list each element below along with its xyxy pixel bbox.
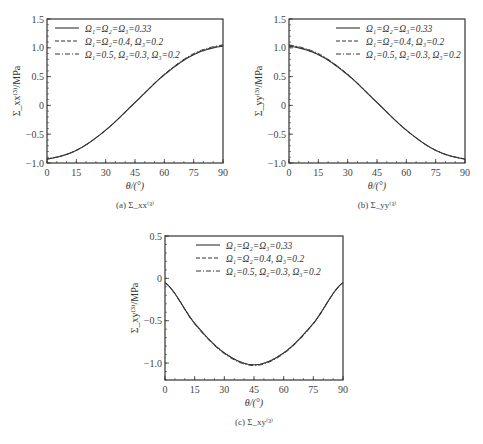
legend-label: Ω₁=Ω₂=0.4, Ω₃=0.2 — [226, 254, 304, 264]
series-line — [165, 283, 343, 366]
x-tick-label: 60 — [159, 167, 169, 178]
legend-label: Ω₁=Ω₂=Ω₃=0.33 — [85, 24, 152, 34]
y-tick-label: −0.5 — [26, 129, 44, 140]
x-tick-label: 90 — [460, 167, 470, 178]
x-axis-label: θ/(°) — [368, 180, 387, 192]
series-line — [47, 46, 223, 159]
x-tick-label: 90 — [338, 384, 348, 395]
subfigure-caption: (c) Σ_xy⁽³⁾ — [235, 417, 273, 427]
x-tick-label: 60 — [279, 384, 289, 395]
chart-b: 0153045607590−1.0−0.500.51.01.5θ/(°)Σ_yy… — [253, 14, 470, 211]
x-tick-label: 45 — [249, 384, 259, 395]
y-tick-label: 1.0 — [32, 42, 45, 53]
legend-label: Ω₁=0.5, Ω₂=0.3, Ω₃=0.2 — [85, 50, 180, 60]
x-tick-label: 45 — [130, 167, 140, 178]
x-tick-label: 0 — [163, 384, 168, 395]
y-tick-label: 0 — [157, 273, 162, 284]
y-tick-label: −1.0 — [268, 158, 286, 169]
x-tick-label: 90 — [218, 167, 228, 178]
y-tick-label: 0.5 — [150, 231, 163, 242]
x-tick-label: 0 — [287, 167, 292, 178]
y-tick-label: 0 — [281, 100, 286, 111]
y-tick-label: 1.5 — [274, 14, 287, 25]
subfigure-caption: (b) Σ_yy⁽³⁾ — [358, 200, 397, 210]
y-axis-label: Σ_xy⁽³⁾/MPa — [129, 282, 140, 333]
y-tick-label: 0.5 — [32, 71, 45, 82]
series-line — [47, 45, 223, 159]
x-tick-label: 30 — [219, 384, 229, 395]
x-tick-label: 15 — [190, 384, 200, 395]
chart-a: 0153045607590−1.0−0.500.51.01.5θ/(°)Σ_xx… — [11, 14, 228, 211]
x-tick-label: 45 — [372, 167, 382, 178]
x-tick-label: 15 — [71, 167, 81, 178]
series-line — [165, 283, 343, 365]
x-tick-label: 60 — [401, 167, 411, 178]
y-tick-label: −1.0 — [26, 158, 44, 169]
series-line — [165, 283, 343, 365]
legend-label: Ω₁=Ω₂=Ω₃=0.33 — [226, 241, 293, 251]
y-tick-label: −0.5 — [268, 129, 286, 140]
subfigure-caption: (a) Σ_xx⁽³⁾ — [116, 200, 154, 210]
x-axis-label: θ/(°) — [126, 180, 145, 192]
y-tick-label: 1.5 — [32, 14, 45, 25]
legend-label: Ω₁=Ω₂=0.4, Ω₃=0.2 — [85, 37, 163, 47]
figure: 0153045607590−1.0−0.500.51.01.5θ/(°)Σ_xx… — [0, 0, 483, 444]
legend-label: Ω₁=Ω₂=0.4, Ω₃=0.2 — [366, 37, 444, 47]
x-tick-label: 30 — [101, 167, 111, 178]
x-tick-label: 15 — [313, 167, 323, 178]
y-axis-label: Σ_xx⁽³⁾/MPa — [11, 65, 22, 116]
y-tick-label: 0.5 — [274, 71, 287, 82]
y-axis-label: Σ_yy⁽³⁾/MPa — [253, 65, 264, 116]
legend-label: Ω₁=0.5, Ω₂=0.3, Ω₃=0.2 — [226, 267, 321, 277]
chart-c: 0153045607590−1.0−0.500.5θ/(°)Σ_xy⁽³⁾/MP… — [129, 231, 348, 428]
x-tick-label: 75 — [431, 167, 441, 178]
y-tick-label: −0.5 — [144, 315, 162, 326]
series-line — [289, 45, 465, 159]
x-tick-label: 75 — [189, 167, 199, 178]
y-tick-label: 0 — [39, 100, 44, 111]
legend-label: Ω₁=0.5, Ω₂=0.3, Ω₃=0.2 — [366, 50, 461, 60]
y-tick-label: −1.0 — [144, 358, 162, 369]
x-tick-label: 30 — [343, 167, 353, 178]
x-axis-label: θ/(°) — [245, 397, 264, 409]
y-tick-label: 1.0 — [274, 42, 287, 53]
legend-label: Ω₁=Ω₂=Ω₃=0.33 — [366, 24, 433, 34]
x-tick-label: 0 — [45, 167, 50, 178]
x-tick-label: 75 — [308, 384, 318, 395]
